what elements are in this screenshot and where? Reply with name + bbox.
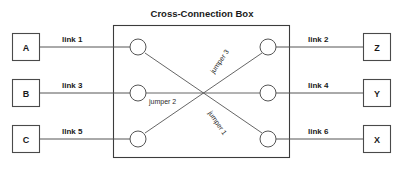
node-y[interactable]: Y bbox=[364, 80, 391, 107]
link-label-4: link 4 bbox=[308, 81, 329, 90]
node-x[interactable]: X bbox=[364, 126, 391, 153]
jumper-label-2: jumper 2 bbox=[148, 98, 176, 106]
port-right-bottom[interactable] bbox=[260, 131, 276, 147]
node-z-label: Z bbox=[374, 43, 380, 53]
cross-connection-diagram: Cross-Connection Box A B bbox=[0, 0, 404, 170]
node-b-label: B bbox=[23, 89, 30, 99]
node-x-label: X bbox=[374, 135, 380, 145]
link-label-3: link 3 bbox=[62, 81, 83, 90]
node-y-label: Y bbox=[374, 89, 380, 99]
port-right-top[interactable] bbox=[260, 39, 276, 55]
port-left-bottom[interactable] bbox=[130, 131, 146, 147]
link-label-1: link 1 bbox=[62, 35, 83, 44]
node-a[interactable]: A bbox=[13, 34, 40, 61]
node-c-label: C bbox=[23, 135, 30, 145]
node-c[interactable]: C bbox=[13, 126, 40, 153]
port-left-top[interactable] bbox=[130, 39, 146, 55]
link-label-6: link 6 bbox=[308, 127, 329, 136]
node-a-label: A bbox=[23, 43, 30, 53]
port-left-middle[interactable] bbox=[130, 85, 146, 101]
diagram-canvas: Cross-Connection Box A B bbox=[0, 0, 404, 170]
node-b[interactable]: B bbox=[13, 80, 40, 107]
diagram-title: Cross-Connection Box bbox=[151, 8, 255, 19]
port-right-middle[interactable] bbox=[260, 85, 276, 101]
node-z[interactable]: Z bbox=[364, 34, 391, 61]
link-label-5: llnk 5 bbox=[62, 127, 83, 136]
link-label-2: link 2 bbox=[308, 35, 329, 44]
